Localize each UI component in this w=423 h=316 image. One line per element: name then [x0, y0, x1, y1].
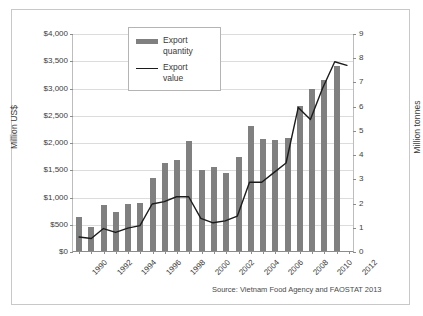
y-axis-left-tick-label: $1,500: [44, 166, 68, 174]
x-axis-tick-label: 2010: [336, 258, 355, 277]
y-axis-left-tick-label: $4,000: [44, 30, 68, 38]
y-axis-left-tick-label: $2,500: [44, 112, 68, 120]
source-note: Source: Vietnam Food Agency and FAOSTAT …: [212, 285, 382, 294]
y-axis-right-tick-mark: [353, 58, 356, 59]
legend-label-line1: Export: [163, 62, 188, 72]
x-axis-tick-mark: [202, 251, 203, 254]
x-axis-tick-mark: [337, 251, 338, 254]
x-axis-tick-mark: [140, 251, 141, 254]
x-axis-tick-label: 2006: [287, 258, 306, 277]
x-axis-tick-mark: [91, 251, 92, 254]
y-axis-left-tick-label: $0: [59, 248, 68, 256]
y-axis-right-tick-mark: [353, 131, 356, 132]
y-axis-right-tick-mark: [353, 179, 356, 180]
x-axis-tick-label: 1996: [164, 258, 183, 277]
y-axis-right-tick-label: 1: [359, 224, 363, 232]
x-axis-tick-label: 1990: [90, 258, 109, 277]
y-axis-right-tick-label: 9: [359, 30, 363, 38]
y-axis-right-tick-mark: [353, 107, 356, 108]
y-axis-right-tick-mark: [353, 82, 356, 83]
x-axis-tick-label: 1994: [139, 258, 158, 277]
x-axis-tick-mark: [153, 251, 154, 254]
x-axis-tick-mark: [239, 251, 240, 254]
y-axis-left-tick-mark: [70, 252, 73, 253]
legend-item-export-quantity: Export quantity: [136, 35, 214, 56]
y-axis-right-title: Million tonnes: [412, 100, 422, 153]
y-axis-left-tick-label: $2,000: [44, 139, 68, 147]
legend-label-export-value: Export value: [163, 62, 188, 83]
y-axis-right-tick-label: 5: [359, 127, 363, 135]
legend-label-line2: value: [163, 73, 183, 83]
x-axis-tick-mark: [104, 251, 105, 254]
y-axis-right-tick-label: 6: [359, 103, 363, 111]
x-axis-tick-mark: [128, 251, 129, 254]
x-axis-tick-label: 2000: [213, 258, 232, 277]
bar-swatch-icon: [136, 35, 158, 48]
x-axis-tick-label: 2004: [262, 258, 281, 277]
y-axis-left-title: Million US$: [9, 105, 19, 149]
x-axis-tick-label: 2012: [360, 258, 379, 277]
y-axis-right-tick-mark: [353, 252, 356, 253]
y-axis-left-tick-label: $3,500: [44, 57, 68, 65]
legend-label-line1: Export: [163, 35, 188, 45]
x-axis-tick-label: 2008: [311, 258, 330, 277]
y-axis-right-tick-label: 3: [359, 175, 363, 183]
x-axis-tick-mark: [300, 251, 301, 254]
x-axis-tick-mark: [177, 251, 178, 254]
y-axis-right-tick-label: 0: [359, 248, 363, 256]
x-axis-tick-mark: [263, 251, 264, 254]
y-axis-left-tick-label: $3,000: [44, 85, 68, 93]
x-axis-tick-mark: [324, 251, 325, 254]
x-axis-tick-label: 1992: [115, 258, 134, 277]
x-axis-tick-mark: [288, 251, 289, 254]
y-axis-left-tick-label: $1,000: [44, 194, 68, 202]
legend-label-export-quantity: Export quantity: [163, 35, 193, 56]
y-axis-right-tick-mark: [353, 155, 356, 156]
x-axis-tick-mark: [189, 251, 190, 254]
y-axis-right-tick-label: 8: [359, 54, 363, 62]
chart-figure: Million US$ Million tonnes $0$500$1,000$…: [0, 0, 423, 316]
figure-frame: Million US$ Million tonnes $0$500$1,000$…: [11, 9, 410, 305]
x-axis-tick-label: 1998: [188, 258, 207, 277]
legend-label-line2: quantity: [163, 46, 193, 56]
chart-legend: Export quantity Export value: [128, 27, 221, 91]
x-axis-tick-mark: [116, 251, 117, 254]
x-axis-tick-mark: [275, 251, 276, 254]
x-axis-tick-mark: [312, 251, 313, 254]
y-axis-right-tick-label: 2: [359, 200, 363, 208]
x-axis-tick-mark: [214, 251, 215, 254]
y-axis-right-tick-mark: [353, 228, 356, 229]
y-axis-right-tick-mark: [353, 34, 356, 35]
y-axis-right-tick-label: 7: [359, 78, 363, 86]
x-axis-tick-mark: [165, 251, 166, 254]
line-swatch-icon: [136, 62, 158, 75]
y-axis-right-tick-label: 4: [359, 151, 363, 159]
y-axis-left-tick-label: $500: [50, 221, 68, 229]
x-axis-tick-mark: [226, 251, 227, 254]
x-axis-tick-label: 2002: [237, 258, 256, 277]
x-axis-tick-mark: [349, 251, 350, 254]
legend-item-export-value: Export value: [136, 62, 214, 83]
x-axis-tick-mark: [251, 251, 252, 254]
x-axis-tick-mark: [79, 251, 80, 254]
y-axis-right-tick-mark: [353, 204, 356, 205]
